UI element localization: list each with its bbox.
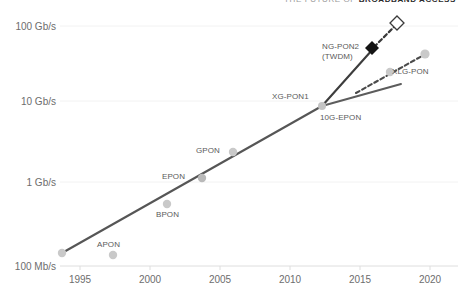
point-label-apon: APON — [97, 240, 120, 249]
data-markers — [58, 49, 430, 259]
marker-apon — [109, 251, 117, 259]
lower-branch-trend-line — [322, 84, 401, 106]
y-tick-10gbs: 10 Gb/s — [4, 96, 56, 107]
plot-area: 100 Gb/s 10 Gb/s 1 Gb/s 100 Mb/s 1995 20… — [0, 0, 464, 301]
x-tick-2000: 2000 — [130, 274, 170, 285]
historical-trend-line — [62, 106, 322, 253]
y-tick-1gbs: 1 Gb/s — [4, 177, 56, 188]
x-axis-ticks — [80, 266, 430, 270]
point-label-xlg-pon: XLG-PON — [392, 67, 429, 76]
marker-gpon — [229, 148, 237, 156]
x-tick-2020: 2020 — [410, 274, 450, 285]
point-label-ng-pon2: NG-PON2 (TWDM) — [322, 42, 359, 61]
point-label-gpon: GPON — [196, 146, 220, 155]
y-tick-100mbs: 100 Mb/s — [4, 261, 56, 272]
marker-projection-open — [390, 16, 404, 30]
point-label-epon: EPON — [162, 172, 185, 181]
point-label-10g-epon: 10G-EPON — [320, 113, 361, 122]
chart-canvas — [0, 0, 464, 301]
x-tick-2005: 2005 — [200, 274, 240, 285]
marker-origin — [58, 249, 66, 257]
x-tick-1995: 1995 — [60, 274, 100, 285]
gridlines — [60, 26, 458, 182]
ng-pon2-projection-line — [374, 27, 394, 47]
broadband-access-chart: THE FUTURE OF BROADBAND ACCESS — [0, 0, 464, 301]
marker-bpon — [163, 200, 171, 208]
x-tick-2010: 2010 — [270, 274, 310, 285]
point-label-ng-pon2-line1: NG-PON2 — [322, 42, 359, 52]
marker-xlg-pon — [420, 49, 429, 58]
point-label-xg-pon1: XG-PON1 — [272, 92, 309, 101]
point-label-bpon: BPON — [156, 210, 179, 219]
marker-xg-pon1 — [318, 102, 326, 110]
marker-epon — [198, 174, 206, 182]
projection-lines — [356, 27, 422, 93]
x-tick-2015: 2015 — [340, 274, 380, 285]
y-tick-100gbs: 100 Gb/s — [4, 21, 56, 32]
point-label-ng-pon2-line2: (TWDM) — [322, 52, 359, 62]
